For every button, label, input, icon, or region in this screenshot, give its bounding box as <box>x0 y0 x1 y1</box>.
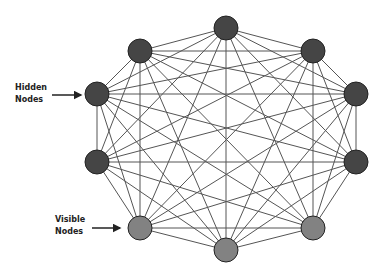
edge <box>97 94 226 250</box>
edge <box>226 28 313 51</box>
hidden-node <box>301 39 325 63</box>
visible-node <box>301 216 325 240</box>
visible-node <box>214 238 238 262</box>
visible-label-line1: Visible <box>55 214 85 226</box>
edge <box>226 94 356 250</box>
edge <box>226 228 313 250</box>
edge <box>140 51 356 162</box>
edge <box>313 51 356 162</box>
visible-nodes-label: Visible Nodes <box>55 214 85 238</box>
hidden-node <box>344 82 368 106</box>
hidden-label-line1: Hidden <box>15 82 47 94</box>
boltzmann-machine-diagram: Hidden Nodes Visible Nodes <box>0 0 386 277</box>
edge <box>226 28 356 94</box>
hidden-node <box>128 39 152 63</box>
hidden-node <box>85 150 109 174</box>
edge <box>97 28 226 94</box>
edge <box>97 51 140 162</box>
hidden-label-line2: Nodes <box>15 94 47 106</box>
hidden-nodes-label: Hidden Nodes <box>15 82 47 106</box>
edge <box>226 28 356 162</box>
edge <box>140 228 226 250</box>
hidden-node <box>85 82 109 106</box>
hidden-node <box>214 16 238 40</box>
hidden-node <box>344 150 368 174</box>
visible-node <box>128 216 152 240</box>
visible-label-line2: Nodes <box>55 226 85 238</box>
edge <box>97 51 313 162</box>
edge <box>97 28 226 162</box>
edge <box>140 28 226 51</box>
